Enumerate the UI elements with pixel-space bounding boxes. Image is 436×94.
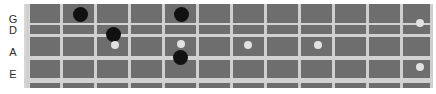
note-marker-scale-e-fret12[interactable] (416, 63, 424, 71)
note-marker-root-a-fret5[interactable] (173, 50, 188, 65)
string-label-d: D (4, 25, 22, 36)
note-marker-scale-d-fret12[interactable] (416, 19, 424, 27)
fret-wire-6 (196, 4, 199, 88)
note-marker-scale-d-fret5[interactable] (177, 40, 185, 48)
note-marker-scale-a-fret9[interactable] (314, 41, 322, 49)
string-line-g (24, 23, 432, 25)
fret-wire-4 (128, 4, 131, 88)
string-line-e (24, 78, 432, 83)
note-marker-scale-d-fret3[interactable] (111, 41, 119, 49)
fret-wire-5 (162, 4, 165, 88)
note-marker-root-g-fret2[interactable] (73, 7, 88, 22)
fret-wire-2 (60, 4, 63, 88)
fret-wire-8 (264, 4, 267, 88)
note-marker-root-g-fret5[interactable] (174, 7, 189, 22)
fret-wire-1 (26, 4, 29, 88)
fret-wire-7 (230, 4, 233, 88)
fret-wire-3 (94, 4, 97, 88)
fretboard-diagram: GDAE (0, 0, 436, 94)
note-marker-root-d-fret3[interactable] (106, 27, 121, 42)
fret-wire-13 (430, 4, 433, 88)
fret-wire-11 (366, 4, 369, 88)
fret-wire-10 (332, 4, 335, 88)
fret-wire-12 (400, 4, 403, 88)
string-label-e: E (4, 69, 22, 80)
string-line-d (24, 34, 432, 37)
note-marker-scale-a-fret7[interactable] (244, 41, 252, 49)
string-label-a: A (4, 47, 22, 58)
string-line-a (24, 56, 432, 60)
fret-wire-9 (298, 4, 301, 88)
